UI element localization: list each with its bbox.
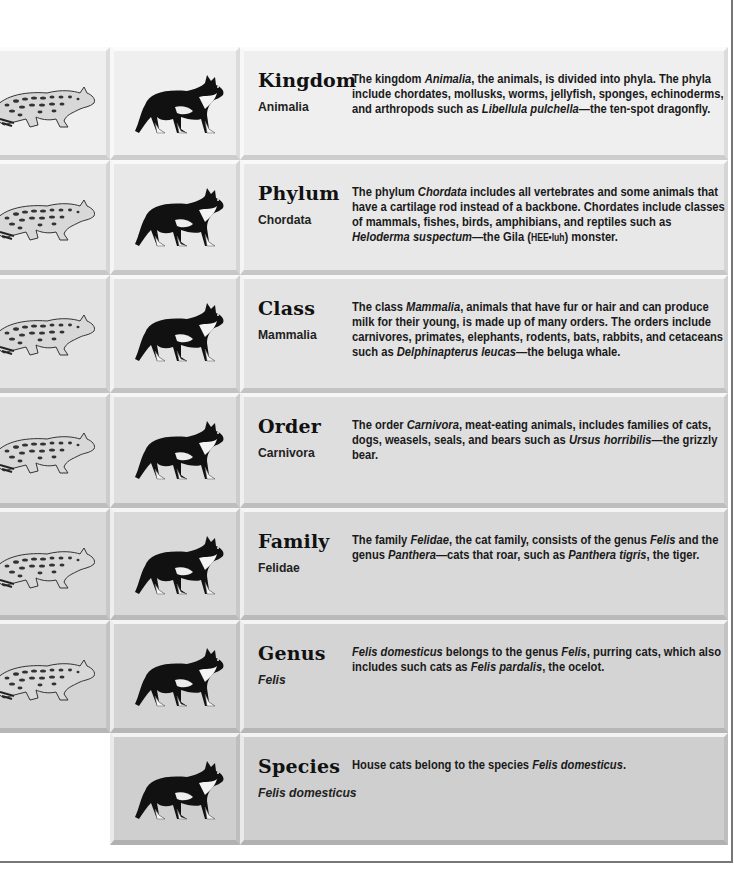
cat-cell xyxy=(110,620,240,733)
ocelot-cell xyxy=(0,508,110,620)
rank-label: Phylum xyxy=(258,182,339,204)
taxon-name: Chordata xyxy=(258,212,311,227)
rank-description: The kingdom Animalia, the animals, is di… xyxy=(352,71,730,116)
rank-label: Genus xyxy=(258,642,326,664)
taxonomy-row-phylum: Phylum Chordata The phylum Chordata incl… xyxy=(0,160,728,275)
cat-cell xyxy=(110,275,240,393)
rank-description: The order Carnivora, meat-eating animals… xyxy=(352,417,730,462)
house-cat-icon xyxy=(129,299,229,369)
taxon-name: Felidae xyxy=(258,560,300,575)
frame-bottom-rule xyxy=(0,861,733,863)
ocelot-cell xyxy=(0,275,110,393)
ocelot-icon xyxy=(0,540,97,592)
taxon-name: Felis xyxy=(258,672,286,687)
house-cat-icon xyxy=(129,644,229,714)
cat-cell xyxy=(110,508,240,620)
taxonomy-row-species: Species Felis domesticus House cats belo… xyxy=(0,733,728,845)
rank-label: Order xyxy=(258,415,321,437)
cat-cell xyxy=(110,393,240,508)
taxonomy-row-order: Order Carnivora The order Carnivora, mea… xyxy=(0,393,728,508)
house-cat-icon xyxy=(129,71,229,141)
ocelot-icon xyxy=(0,425,97,477)
house-cat-icon xyxy=(129,757,229,827)
house-cat-icon xyxy=(129,184,229,254)
taxon-cell: Family Felidae The family Felidae, the c… xyxy=(240,508,728,620)
taxon-name: Mammalia xyxy=(258,327,317,342)
taxon-cell: Class Mammalia The class Mammalia, anima… xyxy=(240,275,728,393)
taxon-name: Animalia xyxy=(258,99,309,114)
rank-label: Class xyxy=(258,297,315,319)
taxon-name: Felis domesticus xyxy=(258,785,357,800)
cat-cell xyxy=(110,733,240,845)
rank-description: House cats belong to the species Felis d… xyxy=(352,757,730,772)
rank-description: Felis domesticus belongs to the genus Fe… xyxy=(352,644,730,674)
taxonomy-row-genus: Genus Felis Felis domesticus belongs to … xyxy=(0,620,728,733)
taxon-cell: Phylum Chordata The phylum Chordata incl… xyxy=(240,160,728,275)
ocelot-cell xyxy=(0,620,110,733)
cat-cell xyxy=(110,160,240,275)
ocelot-cell xyxy=(0,160,110,275)
rank-description: The phylum Chordata includes all vertebr… xyxy=(352,184,730,245)
rank-label: Family xyxy=(258,530,330,552)
rank-description: The family Felidae, the cat family, cons… xyxy=(352,532,730,562)
ocelot-icon xyxy=(0,192,97,244)
taxon-name: Carnivora xyxy=(258,445,315,460)
taxon-cell: Species Felis domesticus House cats belo… xyxy=(240,733,728,845)
taxon-cell: Kingdom Animalia The kingdom Animalia, t… xyxy=(240,47,728,160)
ocelot-icon xyxy=(0,79,97,131)
taxon-cell: Genus Felis Felis domesticus belongs to … xyxy=(240,620,728,733)
house-cat-icon xyxy=(129,417,229,487)
taxonomy-row-kingdom: Kingdom Animalia The kingdom Animalia, t… xyxy=(0,47,728,160)
taxonomy-row-class: Class Mammalia The class Mammalia, anima… xyxy=(0,275,728,393)
rank-description: The class Mammalia, animals that have fu… xyxy=(352,299,730,359)
frame-right-rule xyxy=(731,0,733,863)
rank-label: Kingdom xyxy=(258,69,356,91)
cat-cell xyxy=(110,47,240,160)
taxonomy-row-family: Family Felidae The family Felidae, the c… xyxy=(0,508,728,620)
taxon-cell: Order Carnivora The order Carnivora, mea… xyxy=(240,393,728,508)
house-cat-icon xyxy=(129,532,229,602)
ocelot-icon xyxy=(0,307,97,359)
ocelot-cell xyxy=(0,393,110,508)
rank-label: Species xyxy=(258,755,340,777)
ocelot-icon xyxy=(0,652,97,704)
ocelot-cell xyxy=(0,47,110,160)
